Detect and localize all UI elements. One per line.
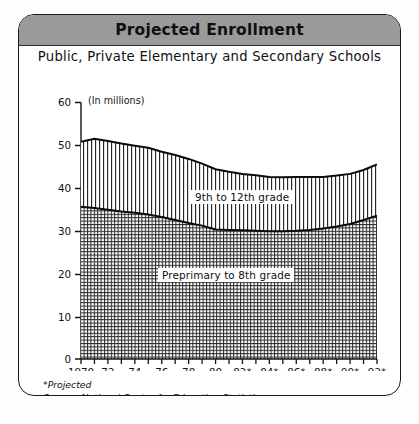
x-tick-label-1972: 72 — [101, 366, 114, 371]
x-tick-label-1988: 88* — [314, 366, 332, 371]
x-tick-label-1982: 82* — [233, 366, 251, 371]
band-label-lower: Preprimary to 8th grade — [158, 268, 294, 282]
band-label-upper: 9th to 12th grade — [191, 190, 293, 204]
x-tick-label-1984: 84* — [260, 366, 278, 371]
x-tick-label-1990: 90* — [341, 366, 359, 371]
x-tick-label-1970: 1970 — [68, 366, 94, 371]
x-tickmarks — [81, 359, 377, 364]
x-tick-label-1974: 74 — [128, 366, 141, 371]
y-tick-50: 50 — [58, 139, 71, 151]
x-tick-label-1986: 86* — [287, 366, 305, 371]
x-tick-label-1976: 76 — [155, 366, 168, 371]
page-title: Projected Enrollment — [115, 21, 304, 39]
footnote-projected: *Projected — [43, 379, 265, 392]
y-tick-60: 60 — [58, 96, 71, 108]
enrollment-area-chart: 60 50 40 30 20 10 0 — [19, 71, 401, 371]
x-tick-label-1980: 80 — [209, 366, 222, 371]
chart-card: Projected Enrollment Public, Private Ele… — [18, 14, 401, 396]
y-tick-10: 10 — [58, 311, 71, 323]
y-tick-30: 30 — [58, 225, 71, 237]
area-series-group — [81, 139, 377, 359]
x-axis-group: 1970727476788082*84*86*88*90*92* — [68, 359, 386, 371]
y-tick-20: 20 — [58, 268, 71, 280]
x-tick-label-1978: 78 — [182, 366, 195, 371]
page-root: Projected Enrollment Public, Private Ele… — [0, 0, 419, 424]
y-tick-40: 40 — [58, 182, 71, 194]
x-tick-labels: 1970727476788082*84*86*88*90*92* — [68, 366, 386, 371]
footnote-source: Source: National Center for Education St… — [43, 392, 265, 396]
chart-plot-area: (In millions) — [19, 71, 401, 371]
card-title-bar: Projected Enrollment — [19, 15, 400, 46]
footnotes: *Projected Source: National Center for E… — [43, 379, 265, 396]
x-tick-label-1992: 92* — [368, 366, 386, 371]
y-tick-0: 0 — [64, 353, 71, 365]
chart-subtitle: Public, Private Elementary and Secondary… — [19, 49, 400, 64]
y-axis-group: 60 50 40 30 20 10 0 — [58, 96, 81, 365]
y-axis-unit-label: (In millions) — [88, 95, 144, 106]
